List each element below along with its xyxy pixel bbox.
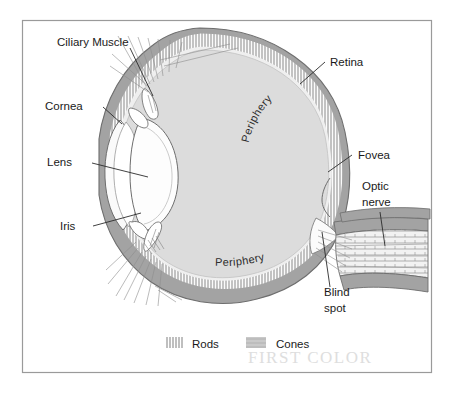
label-blind-spot-line1: Blind	[324, 286, 350, 298]
label-fovea: Fovea	[358, 149, 391, 161]
optic-nerve-body	[336, 230, 428, 278]
label-retina: Retina	[330, 56, 364, 68]
eye-cross-section-figure: Ciliary Muscle Cornea Lens Iris Retina F…	[0, 0, 454, 394]
label-ciliary-muscle: Ciliary Muscle	[57, 36, 129, 48]
label-optic-nerve-line1: Optic	[362, 180, 389, 192]
label-iris: Iris	[60, 220, 76, 232]
legend-swatch-cones	[246, 337, 266, 348]
label-lens: Lens	[47, 156, 72, 168]
handwriting-annotation: FIRST COLOR	[248, 348, 372, 367]
eye-diagram-page: Ciliary Muscle Cornea Lens Iris Retina F…	[0, 0, 454, 394]
label-cornea: Cornea	[45, 100, 83, 112]
legend-label-rods: Rods	[192, 338, 219, 350]
optic-nerve-sheath-lower	[340, 273, 428, 292]
label-blind-spot-line2: spot	[324, 302, 347, 314]
legend-swatch-rods	[167, 337, 182, 348]
eye-globe	[99, 28, 430, 306]
label-optic-nerve-line2: nerve	[362, 196, 391, 208]
